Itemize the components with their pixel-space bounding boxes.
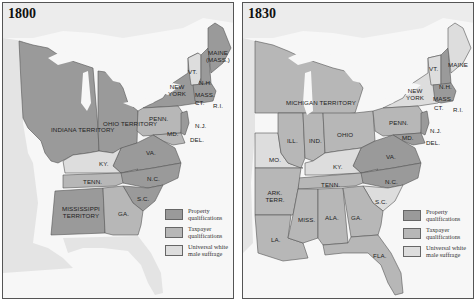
label-maine: MAINE (MASS.)	[205, 49, 231, 63]
label-nc: N.C.	[147, 175, 160, 182]
swatch-property	[403, 210, 421, 221]
legend-label-universal: Universal white male suffrage	[426, 245, 470, 258]
legend-item-property: Property qualifications	[165, 208, 232, 221]
label-vt: VT.	[188, 68, 197, 75]
label-new-york: NEW YORK	[403, 87, 427, 101]
label-la: LA.	[271, 236, 281, 243]
label-maine: MAINE	[448, 61, 468, 68]
label-vt: VT.	[429, 65, 438, 72]
label-sc: S.C.	[375, 198, 387, 205]
label-tenn: TENN.	[321, 181, 340, 188]
label-ky: KY.	[333, 163, 342, 170]
label-mississippi-territory: MISSISSIPPI TERRITORY	[61, 205, 101, 219]
label-va: VA.	[146, 149, 156, 156]
label-va: VA.	[386, 153, 396, 160]
legend-1830: Property qualifications Taxpayer qualifi…	[403, 209, 470, 264]
label-ri: R.I.	[213, 102, 223, 109]
legend-label-taxpayer: Taxpayer qualifications	[188, 226, 232, 239]
swatch-universal	[403, 246, 421, 257]
label-ark-terr: ARK. TERR.	[265, 189, 285, 203]
legend-item-property: Property qualifications	[403, 209, 470, 222]
label-del: DEL.	[190, 136, 204, 143]
label-del: DEL.	[426, 139, 440, 146]
legend-item-universal: Universal white male suffrage	[403, 245, 470, 258]
label-tenn: TENN.	[83, 178, 102, 185]
label-ill: ILL.	[287, 137, 298, 144]
map-panel-1830: 1830 MICHIGAN TERRITORY ILL. IND. OHIO P…	[242, 2, 474, 299]
label-ala: ALA.	[325, 214, 339, 221]
label-sc: S.C.	[137, 195, 149, 202]
map-year-1800: 1800	[8, 6, 36, 22]
swatch-taxpayer	[165, 227, 183, 238]
label-nc: N.C.	[385, 178, 398, 185]
swatch-property	[165, 209, 183, 220]
label-mass: MASS.	[195, 91, 215, 98]
label-indiana-territory: INDIANA TERRITORY	[51, 126, 115, 133]
label-ga: GA.	[118, 210, 129, 217]
legend-item-taxpayer: Taxpayer qualifications	[165, 226, 232, 239]
legend-label-property: Property qualifications	[426, 209, 470, 222]
label-ct: CT.	[195, 99, 205, 106]
legend-label-property: Property qualifications	[188, 208, 232, 221]
label-new-york: NEW YORK	[163, 83, 191, 97]
label-nj: N.J.	[430, 127, 441, 134]
label-penn: PENN.	[389, 119, 408, 126]
map-year-1830: 1830	[248, 6, 276, 22]
swatch-taxpayer	[403, 228, 421, 239]
label-mass: MASS.	[433, 95, 453, 102]
label-penn: PENN.	[149, 115, 168, 122]
legend-1800: Property qualifications Taxpayer qualifi…	[165, 208, 232, 263]
label-ri: R.I.	[453, 106, 463, 113]
legend-label-universal: Universal white male suffrage	[188, 244, 232, 257]
label-nj: N.J.	[195, 122, 206, 129]
label-ky: KY.	[99, 160, 108, 167]
label-ct: CT.	[434, 104, 444, 111]
label-fla: FLA.	[373, 252, 386, 259]
label-ohio: OHIO	[337, 131, 353, 138]
map-panel-1800: 1800 INDIANA TERRITORY OHIO TERRITORY PE…	[2, 2, 234, 299]
label-ind: IND.	[309, 137, 322, 144]
swatch-universal	[165, 245, 183, 256]
label-nh: N.H.	[439, 83, 452, 90]
label-michigan-territory: MICHIGAN TERRITORY	[286, 99, 356, 106]
legend-item-universal: Universal white male suffrage	[165, 244, 232, 257]
legend-label-taxpayer: Taxpayer qualifications	[426, 227, 470, 240]
label-mo: MO.	[269, 156, 281, 163]
label-md: MD.	[402, 134, 414, 141]
label-md: MD.	[167, 130, 179, 137]
label-miss: MISS.	[298, 216, 315, 223]
legend-item-taxpayer: Taxpayer qualifications	[403, 227, 470, 240]
label-nh: N.H.	[199, 79, 212, 86]
label-ga: GA.	[351, 214, 362, 221]
